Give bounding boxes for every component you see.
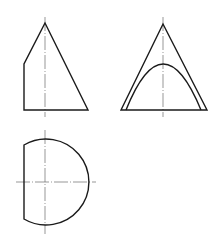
side-view	[121, 17, 207, 117]
projection-drawing	[0, 0, 222, 248]
side-view-outline	[121, 24, 207, 110]
top-view	[16, 130, 96, 234]
side-view-parabola	[126, 64, 201, 110]
front-view-outline	[24, 23, 88, 110]
front-view	[24, 17, 88, 117]
